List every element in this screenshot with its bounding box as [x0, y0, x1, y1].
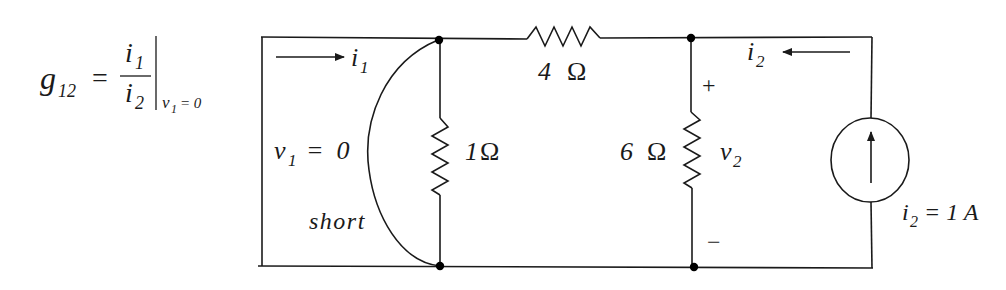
formula-numerator-subscript: 1 — [135, 53, 144, 73]
source-label: i — [902, 199, 909, 225]
v2-minus-sign: − — [707, 229, 721, 255]
resistor-4-ohm — [527, 27, 600, 46]
top-wire-right — [600, 37, 872, 38]
label-r-series: 4 Ω — [538, 57, 586, 86]
v2-subscript: 2 — [733, 152, 742, 171]
circuit-diagram: g 12 = i 1 i 2 v 1 = 0 — [0, 0, 1006, 290]
i2-label: i — [747, 37, 754, 66]
g12-formula: g 12 = i 1 i 2 v 1 = 0 — [40, 36, 202, 116]
short-label: short — [309, 208, 366, 234]
r-left-unit: Ω — [480, 137, 499, 166]
source-subscript: 2 — [910, 213, 918, 230]
v1-label: v — [274, 136, 286, 165]
i2-subscript: 2 — [756, 52, 765, 71]
i1-label: i — [351, 43, 358, 72]
node-bottom-right — [690, 263, 698, 271]
node-bottom-left — [436, 262, 444, 270]
top-wire-left — [261, 37, 527, 39]
formula-numerator: i — [125, 37, 133, 68]
label-v1: v 1 = 0 — [274, 136, 350, 170]
v2-plus-sign: + — [702, 72, 716, 98]
r-right-unit: Ω — [647, 137, 666, 166]
v2-label: v — [720, 137, 732, 166]
right-wire-top — [871, 37, 872, 118]
r-series-value: 4 — [538, 57, 551, 86]
node-top-right — [687, 34, 695, 42]
source-value: = 1 A — [924, 199, 979, 225]
label-source: i 2 = 1 A — [902, 199, 979, 230]
label-v2: v 2 — [720, 137, 742, 171]
r-left-value: 1 — [465, 137, 478, 166]
r-right-value: 6 — [620, 137, 633, 166]
label-i1: i 1 — [351, 43, 369, 77]
condition-subscript: 1 — [171, 102, 177, 116]
label-i2: i 2 — [747, 37, 765, 71]
resistor-6-ohm — [684, 112, 700, 188]
formula-lhs-subscript: 12 — [58, 81, 76, 101]
v1-value: = 0 — [306, 136, 350, 165]
label-r-left: 1 Ω — [465, 137, 499, 166]
formula-lhs: g — [40, 60, 56, 96]
formula-denominator-subscript: 2 — [135, 93, 144, 113]
current-source-circle — [831, 118, 909, 202]
formula-denominator: i — [125, 77, 133, 108]
i1-subscript: 1 — [360, 58, 369, 77]
bottom-wire — [258, 266, 873, 268]
node-top-left — [435, 36, 443, 44]
short-circuit-wire — [368, 40, 440, 266]
resistor-1-ohm — [432, 118, 448, 195]
label-r-right: 6 Ω — [620, 137, 666, 166]
current-source — [831, 118, 909, 202]
condition-value: = 0 — [180, 95, 202, 111]
right-wire-bottom — [871, 202, 872, 268]
v1-subscript: 1 — [288, 151, 297, 170]
r-series-unit: Ω — [567, 57, 586, 86]
formula-equals: = — [92, 62, 108, 93]
condition-variable: v — [162, 93, 170, 112]
